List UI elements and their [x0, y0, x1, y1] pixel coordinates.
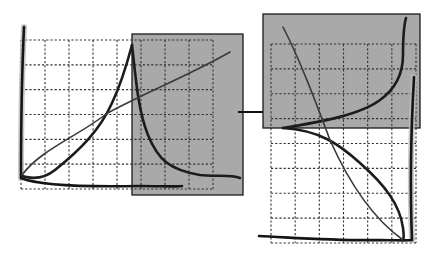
right-graph — [259, 14, 420, 243]
right-shaded-region — [263, 14, 420, 128]
diagram-svg — [0, 0, 438, 258]
left-graph — [21, 27, 243, 195]
right-horizontal-axis — [259, 236, 412, 240]
diagram-canvas — [0, 0, 438, 258]
